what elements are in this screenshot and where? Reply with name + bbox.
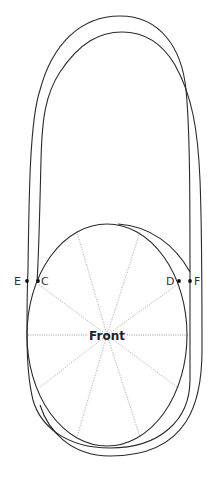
- point-D: [177, 279, 181, 283]
- front-label: Front: [89, 329, 125, 343]
- label-E: E: [14, 275, 21, 288]
- diagram-canvas: E C D F Front: [0, 0, 214, 483]
- offset-arc: [118, 224, 190, 272]
- label-C: C: [41, 275, 49, 288]
- point-C: [36, 279, 40, 283]
- outer-loop: [27, 16, 190, 448]
- label-D: D: [166, 275, 174, 288]
- point-F: [188, 279, 192, 283]
- point-E: [25, 279, 29, 283]
- label-F: F: [194, 275, 200, 288]
